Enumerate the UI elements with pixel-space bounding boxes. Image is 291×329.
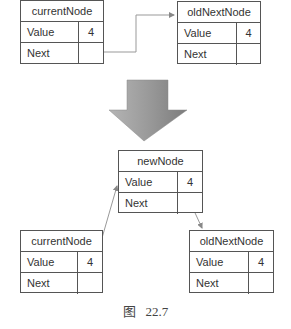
figure-caption: 图 22.7 — [0, 301, 291, 320]
transition-down-arrow-icon — [109, 80, 187, 141]
node-after-current: currentNode Value 4 Next — [20, 230, 103, 293]
value-cell: 4 — [77, 252, 102, 272]
value-label: Value — [27, 252, 54, 273]
next-cell — [78, 43, 103, 64]
value-cell: 4 — [177, 172, 202, 192]
node-before-current: currentNode Value 4 Next — [20, 0, 104, 64]
next-label: Next — [125, 193, 148, 214]
node-title: newNode — [119, 151, 202, 172]
value-row: Value 4 — [21, 252, 102, 273]
value-label: Value — [27, 22, 54, 43]
node-title: currentNode — [21, 1, 103, 22]
value-row: Value 4 — [21, 22, 103, 43]
node-after-oldnext: oldNextNode Value 4 Next — [189, 230, 274, 293]
next-label: Next — [196, 273, 219, 294]
value-cell: 4 — [248, 252, 273, 272]
next-row: Next — [119, 193, 202, 214]
value-cell: 4 — [78, 22, 103, 42]
value-label: Value — [125, 172, 152, 193]
value-label: Value — [184, 23, 211, 44]
node-title: oldNextNode — [178, 2, 260, 23]
next-row: Next — [21, 43, 103, 64]
next-cell — [248, 273, 273, 294]
next-cell — [177, 193, 202, 214]
next-label: Next — [27, 273, 50, 294]
next-row: Next — [178, 44, 260, 65]
value-row: Value 4 — [190, 252, 273, 273]
next-label: Next — [184, 44, 207, 65]
node-title: currentNode — [21, 231, 102, 252]
next-label: Next — [27, 43, 50, 64]
next-row: Next — [21, 273, 102, 294]
node-title: oldNextNode — [190, 231, 273, 252]
next-cell — [77, 273, 102, 294]
next-row: Next — [190, 273, 273, 294]
node-before-oldnext: oldNextNode Value 4 Next — [177, 1, 261, 64]
value-row: Value 4 — [119, 172, 202, 193]
next-cell — [236, 44, 260, 65]
value-label: Value — [196, 252, 223, 273]
value-cell: 4 — [236, 23, 260, 43]
value-row: Value 4 — [178, 23, 260, 44]
node-after-new: newNode Value 4 Next — [118, 150, 203, 213]
